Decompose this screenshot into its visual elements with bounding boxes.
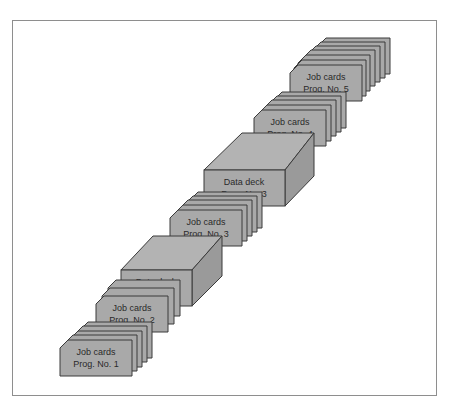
label-line1: Job cards [186,217,226,227]
label-line2: Prog. No. 1 [73,359,119,369]
label-line1: Job cards [76,347,116,357]
label-line1: Job cards [306,72,346,82]
label-line1: Data deck [224,177,265,187]
deck-diagram: Job cards Prog. No. 5 Job cards Prog. No… [0,0,450,412]
label-line1: Job cards [112,303,152,313]
job-cards-stack-1: Job cards Prog. No. 1 [60,322,152,376]
label-line1: Job cards [270,117,310,127]
